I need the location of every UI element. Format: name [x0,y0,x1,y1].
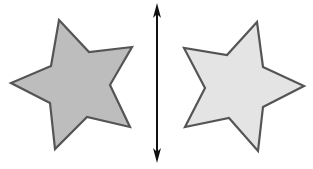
diagram-svg [0,0,313,169]
mirror-line-arrow [153,3,161,163]
reflection-diagram [0,0,313,169]
right-star-shape [184,22,304,151]
left-star-shape [11,20,132,149]
